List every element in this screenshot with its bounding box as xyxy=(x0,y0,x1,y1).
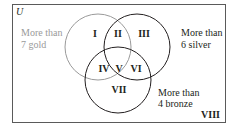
gold-label-line1: More than xyxy=(21,27,62,38)
venn-diagram: U More than 7 gold More than 6 silver Mo… xyxy=(0,0,238,127)
region-VII: VII xyxy=(111,84,126,95)
bronze-label-line1: More than xyxy=(158,87,199,98)
silver-label-line1: More than xyxy=(181,27,222,38)
region-I: I xyxy=(93,28,97,39)
region-II: II xyxy=(114,28,122,39)
region-VI: VI xyxy=(130,63,141,74)
bronze-label-line2: 4 bronze xyxy=(158,98,193,109)
region-III: III xyxy=(138,28,150,39)
region-VIII: VIII xyxy=(201,109,220,120)
region-IV: IV xyxy=(98,63,110,74)
gold-label-line2: 7 gold xyxy=(21,39,46,50)
region-V: V xyxy=(115,63,123,74)
universe-label: U xyxy=(16,6,24,17)
silver-label-line2: 6 silver xyxy=(181,39,211,50)
